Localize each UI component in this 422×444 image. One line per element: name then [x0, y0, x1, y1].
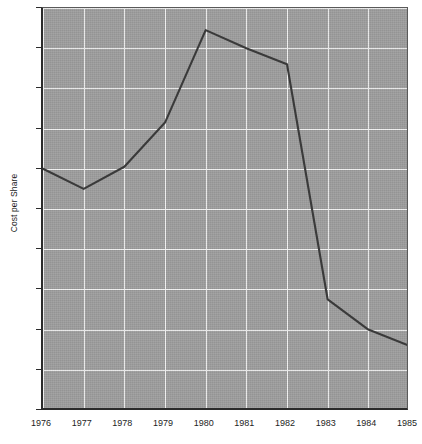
- x-axis-tick-label: 1985: [377, 419, 422, 428]
- data-series-layer: [43, 8, 408, 410]
- series-line: [43, 30, 408, 346]
- plot-area: [41, 7, 408, 410]
- y-axis-title: Cost per Share: [9, 143, 19, 263]
- line-chart: Cost per Share $15141312111098765 197619…: [0, 0, 422, 444]
